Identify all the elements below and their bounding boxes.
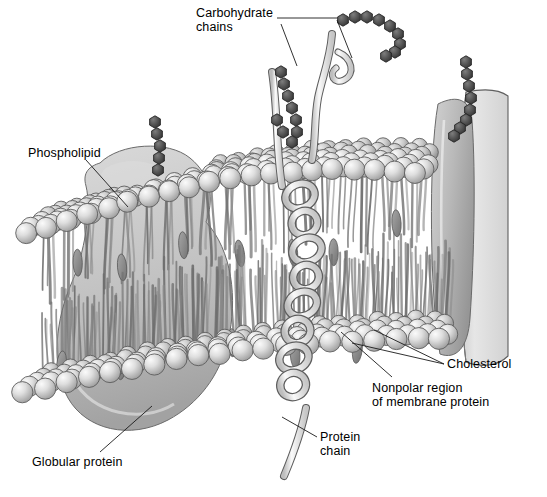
- label-carbohydrate-chains: Carbohydrate chains: [196, 6, 273, 34]
- label-phospholipid: Phospholipid: [28, 146, 101, 160]
- label-nonpolar-region: Nonpolar region of membrane protein: [372, 381, 489, 409]
- label-cholesterol: Cholesterol: [447, 357, 511, 371]
- membrane-diagram: [0, 0, 547, 497]
- label-globular-protein: Globular protein: [32, 455, 123, 469]
- diagram-canvas: Carbohydrate chains Phospholipid Cholest…: [0, 0, 547, 497]
- label-protein-chain: Protein chain: [320, 430, 360, 458]
